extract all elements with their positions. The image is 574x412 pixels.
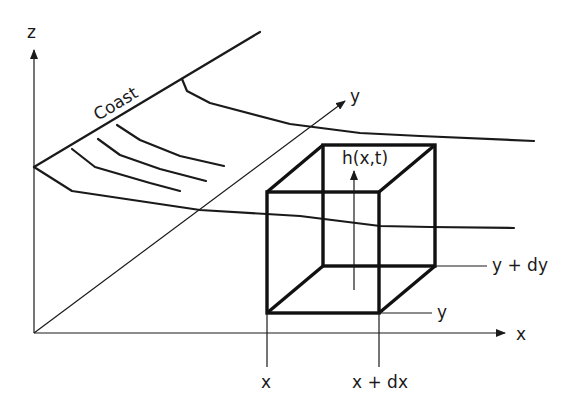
seabed-surface: Coast	[34, 32, 534, 228]
x-axis-label: x	[516, 324, 526, 344]
y-front-label: y	[437, 302, 447, 322]
diagram-canvas: z x y Coast h(x,t) x x + dx y y +	[0, 0, 574, 412]
y-back-label: y + dy	[492, 255, 548, 275]
cube-edge	[379, 266, 435, 313]
height-label: h(x,t)	[342, 148, 388, 168]
lower-depth-contour	[34, 167, 514, 228]
cube-edge	[267, 266, 323, 313]
x-right-label: x + dx	[352, 372, 408, 392]
z-axis-label: z	[27, 22, 36, 42]
control-volume-cube: h(x,t)	[267, 145, 435, 313]
y-axis-label: y	[350, 86, 360, 106]
dimension-markers: x x + dx y y + dy	[261, 255, 548, 392]
x-left-label: x	[261, 372, 271, 392]
cube-edge	[267, 145, 323, 192]
coast-line	[34, 32, 260, 167]
